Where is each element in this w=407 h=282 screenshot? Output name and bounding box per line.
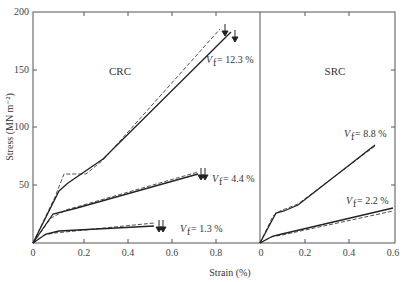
annotation-vf-2.2: V f = 2.2 %	[346, 195, 388, 209]
svg-text:= 8.8 %: = 8.8 %	[355, 128, 386, 139]
crc-x-tick-0: 0	[31, 247, 36, 258]
annotation-vf-8.8: V f = 8.8 %	[344, 128, 386, 142]
src-curves	[260, 145, 393, 243]
panel-label-src: SRC	[325, 65, 346, 77]
stress-strain-chart: 200 150 100 50 0 0.2 0.4 0.6 0.8 0 0.2 0…	[0, 0, 407, 282]
src-x-tick-0.4: 0.4	[343, 247, 356, 258]
x-axis-label: Strain (%)	[209, 267, 250, 279]
annotation-vf-4.4: V f = 4.4 %	[212, 173, 254, 187]
y-tick-50: 50	[19, 179, 29, 190]
src-x-tick-0.6: 0.6	[387, 247, 400, 258]
y-axis-ticks	[33, 12, 395, 243]
y-axis-label: Stress (MN m⁻²)	[4, 93, 16, 160]
svg-text:= 4.4 %: = 4.4 %	[223, 173, 254, 184]
crc-x-tick-0.4: 0.4	[122, 247, 135, 258]
panel-label-crc: CRC	[109, 65, 131, 77]
y-tick-150: 150	[14, 64, 29, 75]
crc-x-tick-0.2: 0.2	[78, 247, 91, 258]
svg-text:= 2.2 %: = 2.2 %	[357, 195, 388, 206]
crc-x-tick-0.6: 0.6	[166, 247, 179, 258]
annotation-vf-12.3: V f = 12.3 %	[206, 54, 253, 68]
svg-text:= 1.3 %: = 1.3 %	[191, 223, 222, 234]
y-tick-100: 100	[14, 121, 29, 132]
crc-x-tick-0.8: 0.8	[210, 247, 223, 258]
src-vf-8.8-experimental	[260, 145, 375, 243]
svg-text:= 12.3 %: = 12.3 %	[217, 54, 253, 65]
src-vf-2.2-theory	[260, 211, 393, 243]
annotation-vf-1.3: V f = 1.3 %	[180, 223, 222, 237]
src-x-tick-0.2: 0.2	[299, 247, 312, 258]
plot-frame	[33, 12, 395, 243]
crc-vf-1.3-experimental	[33, 226, 154, 243]
y-tick-200: 200	[14, 6, 29, 17]
crc-curves	[33, 29, 231, 243]
src-x-tick-0: 0	[259, 247, 264, 258]
